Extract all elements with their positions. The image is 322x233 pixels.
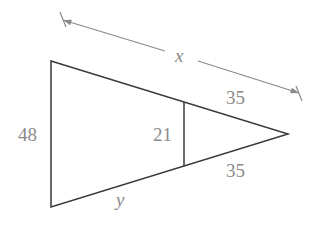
- label-upper-35: 35: [226, 87, 245, 108]
- left-tick: [60, 12, 66, 27]
- left-arrow: [63, 20, 165, 51]
- label-y: y: [114, 189, 125, 210]
- similar-triangles-diagram: x 35 48 21 35 y: [0, 0, 322, 233]
- label-x: x: [174, 45, 184, 66]
- label-48: 48: [18, 124, 37, 145]
- label-21: 21: [153, 124, 172, 145]
- right-arrow: [198, 61, 299, 93]
- right-tick: [296, 86, 302, 101]
- label-lower-35: 35: [226, 160, 245, 181]
